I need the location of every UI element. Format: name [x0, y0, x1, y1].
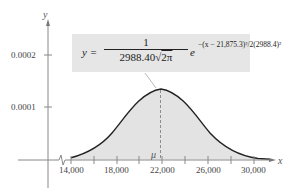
formula-exponent: −(x − 21,875.3)²/2(2988.4)²: [198, 40, 281, 49]
y-axis-arrow-icon: [46, 19, 50, 26]
x-axis-arrow-icon: [269, 158, 276, 162]
y-axis-label: y: [42, 9, 48, 20]
y-tick-label-0002: 0.0002: [11, 50, 36, 60]
axis-break-icon: [57, 155, 71, 165]
x-tick-label-18000: 18,000: [104, 165, 129, 175]
denominator-coeff: 2988.40: [120, 51, 156, 63]
x-tick-label-22000: 22,000: [150, 165, 175, 175]
x-tick-label-14000: 14,000: [59, 165, 84, 175]
y-tick-label-0001: 0.0001: [11, 102, 36, 112]
formula-fraction: 1 2988.40√2π: [104, 36, 188, 63]
formula-denominator: 2988.40√2π: [104, 50, 188, 63]
x-tick-label-30000: 30,000: [241, 165, 266, 175]
mu-label: μ: [150, 149, 156, 160]
denominator-root: 2π: [161, 51, 172, 63]
area-under-curve: [71, 89, 270, 160]
formula-numerator: 1: [104, 36, 188, 50]
x-tick-label-26000: 26,000: [196, 165, 221, 175]
formula-base: e: [190, 46, 195, 58]
callout-pointer: [145, 73, 156, 88]
x-axis-label: x: [277, 155, 283, 166]
normal-curve-chart: y x 0.0002 0.0001 μ 14,000 18,000 22,000…: [0, 0, 293, 194]
formula-lhs: y =: [82, 46, 97, 58]
